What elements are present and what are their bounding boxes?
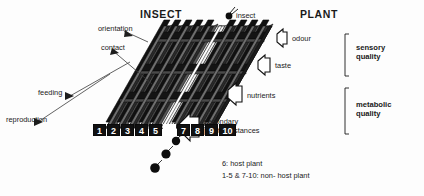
label-feeding: feeding xyxy=(38,89,62,97)
odour-arrow-icon xyxy=(277,29,287,47)
label-orientation: orientation xyxy=(98,25,133,33)
metabolic-quality-bracket xyxy=(345,88,349,134)
plant-heading: PLANT xyxy=(300,9,338,21)
sensory-quality-bracket xyxy=(345,34,349,76)
leader-reproduction xyxy=(38,74,110,122)
filter-box-2: 2 xyxy=(107,124,120,136)
filter-box-5: 5 xyxy=(149,124,162,136)
filter-box-1: 1 xyxy=(93,124,106,136)
filter-box-8: 8 xyxy=(191,124,204,136)
insect-heading: INSECT xyxy=(140,9,182,21)
barrier-structure-diagram xyxy=(0,0,424,196)
label-contact: contact xyxy=(101,44,125,52)
leader-feeding xyxy=(70,62,130,96)
filter-box-10: 10 xyxy=(219,124,236,136)
filter-box-4: 4 xyxy=(135,124,148,136)
filter-box-3: 3 xyxy=(121,124,134,136)
label-sensory-quality-line2: quality xyxy=(356,53,380,62)
quality-brackets xyxy=(345,34,349,134)
filter-box-7: 7 xyxy=(177,124,190,136)
taste-arrow-icon xyxy=(258,55,270,75)
label-reproduction: reproduction xyxy=(6,116,47,124)
caption-line-non-host-plant: 1-5 & 7-10: non- host plant xyxy=(222,172,310,180)
label-metabolic-quality-line2: quality xyxy=(356,110,380,119)
label-odour: odour xyxy=(292,35,311,43)
figure-root: INSECT PLANT insect orientation contact … xyxy=(0,0,424,196)
insect-marker-label: insect xyxy=(236,12,255,20)
label-nutrients: nutrients xyxy=(247,92,275,100)
caption-line-host-plant: 6: host plant xyxy=(222,160,262,168)
label-taste: taste xyxy=(275,62,291,70)
filter-box-9: 9 xyxy=(205,124,218,136)
filter-box-6-host-plant: 6 xyxy=(163,124,176,136)
